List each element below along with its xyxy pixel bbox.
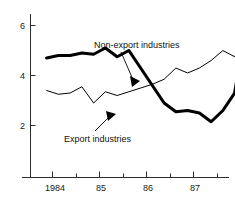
x-tick-label-86: 86 (143, 183, 153, 193)
export-industries-annotation: Export industries (64, 111, 132, 144)
y-tick-label-4: 4 (20, 71, 25, 81)
y-tick-label-2: 2 (20, 121, 25, 131)
export-arrowhead (106, 111, 116, 121)
export-industries-label: Export industries (64, 134, 132, 144)
non-export-industries-label: Non-export industries (94, 40, 180, 50)
series-line-export-industries (47, 48, 235, 122)
chart-container: 6 4 2 1984 85 86 87 (0, 0, 235, 203)
x-tick-label-87: 87 (190, 183, 200, 193)
y-tick-label-6: 6 (20, 21, 25, 31)
x-tick-label-1984: 1984 (45, 183, 65, 193)
x-tick-label-85: 85 (96, 183, 106, 193)
y-axis-ticks (31, 26, 36, 126)
non-export-arrowhead (130, 76, 140, 87)
line-chart: 6 4 2 1984 85 86 87 (0, 0, 235, 203)
x-axis-tick-labels: 1984 85 86 87 (45, 183, 200, 193)
y-axis-tick-labels: 6 4 2 (20, 21, 25, 131)
